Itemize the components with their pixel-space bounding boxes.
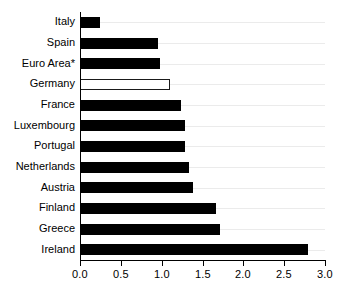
bar: [80, 244, 308, 255]
bar: [80, 203, 216, 214]
x-axis-tick-label: 2.0: [223, 268, 263, 280]
x-axis-tick: [121, 261, 122, 266]
category-label: Greece: [1, 222, 75, 234]
y-axis-line: [80, 12, 81, 261]
bar: [80, 17, 100, 28]
category-label: Austria: [1, 181, 75, 193]
category-label: Germany: [1, 77, 75, 89]
x-axis-tick: [203, 261, 204, 266]
category-label: Portugal: [1, 139, 75, 151]
x-axis-tick-label: 3.0: [305, 268, 345, 280]
category-label: Spain: [1, 36, 75, 48]
bar: [80, 100, 181, 111]
bar-chart: 0.00.51.01.52.02.53.0 ItalySpainEuro Are…: [0, 0, 345, 298]
category-label: Netherlands: [1, 160, 75, 172]
bar: [80, 38, 158, 49]
x-axis-tick: [284, 261, 285, 266]
x-axis-tick-label: 0.5: [101, 268, 141, 280]
category-label: Euro Area*: [1, 57, 75, 69]
x-axis-tick-label: 2.5: [264, 268, 304, 280]
category-label: Italy: [1, 15, 75, 27]
plot-area: [80, 12, 325, 260]
y-axis-category-labels: ItalySpainEuro Area*GermanyFranceLuxembo…: [0, 12, 75, 260]
gridline: [80, 22, 325, 23]
x-axis-tick: [325, 261, 326, 266]
bar: [80, 58, 160, 69]
x-axis-tick: [80, 261, 81, 266]
bar: [80, 120, 185, 131]
category-label: Luxembourg: [1, 119, 75, 131]
x-axis-tick-label: 1.5: [183, 268, 223, 280]
category-label: Ireland: [1, 243, 75, 255]
category-label: Finland: [1, 201, 75, 213]
bar: [80, 182, 193, 193]
bar: [80, 141, 185, 152]
category-label: France: [1, 98, 75, 110]
bar: [80, 162, 189, 173]
x-axis-tick-label: 1.0: [142, 268, 182, 280]
x-axis-tick: [243, 261, 244, 266]
x-axis-tick: [162, 261, 163, 266]
bar: [80, 224, 220, 235]
x-axis-tick-label: 0.0: [60, 268, 100, 280]
bar: [80, 79, 170, 90]
